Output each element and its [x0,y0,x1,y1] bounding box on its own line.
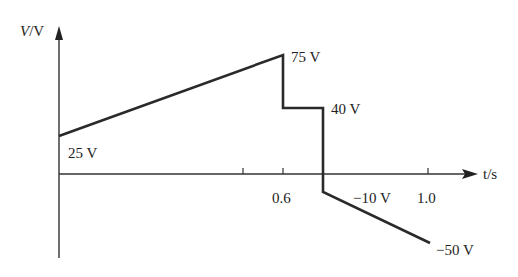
tick-label-1.0: 1.0 [417,190,436,206]
voltage-time-graph: V/V t/s 0.6 1.0 25 V 75 V 40 V −10 V −50… [0,0,518,277]
x-axis-label: t/s [483,166,497,182]
voltage-waveform [59,55,430,243]
annotation-25v: 25 V [68,145,97,161]
annotation-neg10v: −10 V [353,190,391,206]
y-axis-label: V/V [20,23,44,39]
tick-label-0.6: 0.6 [272,190,291,206]
annotation-neg50v: −50 V [436,242,474,258]
annotation-40v: 40 V [331,101,360,117]
annotation-75v: 75 V [291,49,320,65]
y-axis-arrow-icon [55,26,63,40]
